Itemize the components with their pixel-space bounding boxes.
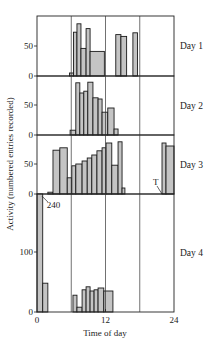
x-tick-label: 0	[35, 315, 40, 325]
panel-day-1: 050Day 1	[24, 16, 203, 81]
histogram-bar	[162, 143, 166, 194]
histogram-bar	[82, 290, 86, 312]
histogram-bar	[106, 143, 112, 194]
histogram-bar	[43, 283, 48, 312]
histogram-bar	[133, 33, 138, 76]
histogram-bar	[98, 288, 104, 312]
day-label: Day 4	[180, 248, 203, 258]
histogram-bar	[116, 35, 121, 76]
histogram-bar	[118, 142, 122, 194]
histogram-bar	[166, 146, 174, 194]
annotation-leader	[157, 186, 162, 194]
y-tick-label: 0	[29, 189, 34, 199]
annotation-t: T	[153, 177, 159, 187]
x-tick-label: 12	[101, 315, 110, 325]
annotation-clipped-value: 240	[47, 200, 61, 210]
y-tick-label: 50	[24, 159, 34, 169]
histogram-bar	[76, 164, 82, 194]
x-tick-labels: 01224	[35, 315, 179, 325]
histogram-bar	[76, 83, 80, 135]
histogram-bar	[102, 112, 108, 135]
activity-chart: 050Day 1050Day 2050Day 3T0100Day 4240 Ac…	[0, 0, 213, 348]
histogram-bar	[98, 99, 102, 135]
histogram-bar	[121, 36, 127, 76]
y-tick-label: 50	[24, 100, 34, 110]
y-tick-label: 50	[24, 41, 34, 51]
day-label: Day 2	[180, 101, 203, 111]
histogram-bar	[114, 129, 118, 135]
histogram-bar	[53, 150, 60, 194]
y-tick-label: 100	[20, 247, 34, 257]
day-label: Day 3	[180, 160, 203, 170]
y-tick-label: 0	[29, 71, 34, 81]
histogram-bar	[81, 48, 86, 76]
histogram-bar	[37, 194, 43, 312]
histogram-bar	[88, 82, 93, 135]
histogram-bar	[84, 91, 88, 135]
histogram-bar	[80, 93, 84, 135]
day-label: Day 1	[180, 41, 203, 51]
histogram-bar	[122, 188, 125, 194]
histogram-bar	[97, 151, 102, 194]
histogram-bar	[93, 98, 98, 135]
panel-day-2: 050Day 2	[24, 76, 203, 140]
histogram-bar	[92, 155, 97, 194]
y-tick-label: 0	[29, 130, 34, 140]
histogram-bar	[108, 108, 114, 135]
x-axis-label: Time of day	[83, 328, 127, 338]
histogram-bar	[87, 158, 92, 194]
histogram-bar	[60, 148, 67, 194]
histogram-bar	[86, 29, 90, 76]
panel-day-4: 0100Day 4240	[20, 194, 204, 317]
histogram-bar	[82, 161, 87, 194]
y-axis-label: Activity (numbered entries recorded)	[5, 97, 15, 231]
y-tick-label: 0	[29, 307, 34, 317]
histogram-bar	[90, 51, 104, 76]
histogram-bar	[77, 307, 82, 312]
histogram-bar	[72, 166, 76, 194]
histogram-bar	[94, 290, 98, 312]
histogram-bar	[112, 165, 118, 194]
panels-group: 050Day 1050Day 2050Day 3T0100Day 4240	[20, 16, 204, 317]
x-tick-label: 24	[170, 315, 180, 325]
panel-day-3: 050Day 3T	[24, 135, 203, 199]
histogram-bar	[74, 32, 77, 76]
histogram-bar	[90, 291, 94, 312]
histogram-bar	[73, 295, 77, 312]
histogram-bar	[77, 24, 81, 76]
histogram-bar	[86, 287, 90, 312]
